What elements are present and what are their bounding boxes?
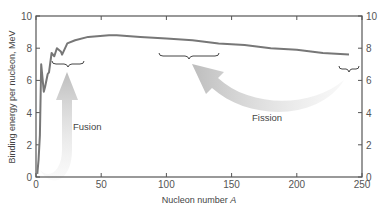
y-tick-label: 4 [26, 108, 32, 119]
x-tick-label: 100 [158, 179, 175, 190]
brace-light-nuclei [52, 61, 84, 67]
y-tick-label: 8 [26, 43, 32, 54]
brace-heavy-nuclei [339, 66, 359, 72]
y-axis-ticks: 0246810 [21, 11, 40, 183]
x-tick-label: 50 [96, 179, 108, 190]
y-right-tick-label: 6 [366, 75, 372, 86]
fusion-label: Fusion [73, 121, 102, 132]
x-axis-title: Nucleon number A [162, 195, 237, 205]
y-tick-label: 0 [26, 172, 32, 183]
fission-arrow [192, 64, 344, 112]
y-axis-right-ticks: 0246810 [358, 11, 378, 183]
y-right-tick-label: 10 [366, 11, 378, 22]
brace-medium-nuclei [159, 53, 219, 59]
y-right-tick-label: 4 [366, 108, 372, 119]
x-tick-label: 200 [288, 179, 305, 190]
y-tick-label: 10 [21, 11, 33, 22]
y-right-tick-label: 8 [366, 43, 372, 54]
x-tick-label: 0 [33, 179, 39, 190]
y-tick-label: 6 [26, 75, 32, 86]
y-axis-title: Binding energy per nucleon, MeV [7, 30, 17, 163]
y-right-tick-label: 0 [366, 172, 372, 183]
binding-energy-chart: 050100150200250 0246810 0246810 Fusion F… [0, 0, 386, 213]
y-right-tick-label: 2 [366, 140, 372, 151]
x-tick-label: 150 [223, 179, 240, 190]
y-tick-label: 2 [26, 140, 32, 151]
fission-label: Fission [252, 112, 282, 123]
